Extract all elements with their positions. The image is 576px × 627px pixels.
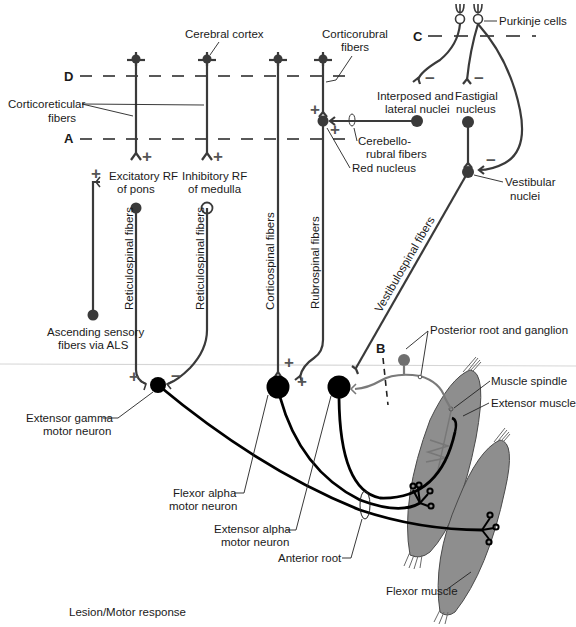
vestibular-label-1: Vestibular [505,176,556,188]
posterior-root-label: Posterior root and ganglion [430,324,568,336]
interposed-label-1: Interposed and [377,90,454,102]
ascending-label-2: fibers via ALS [58,339,129,351]
corticorubral-label-1: Corticorubral [322,28,388,40]
plus-sign: + [297,372,307,391]
interposed-nucleus-cell [411,115,423,127]
rubrospinal-label: Rubrospinal fibers [309,216,321,309]
cortical-neuron-1 [127,52,145,160]
muscle-spindle-label: Muscle spindle [491,375,567,387]
fastigial-label-2: nucleus [456,103,496,115]
lesion-label-d: D [64,69,73,84]
purkinje-cell-2 [463,4,522,174]
vestibulospinal-fiber [356,172,468,368]
cerebellorubral-label-2: rubral fibers [366,148,427,160]
reticulospinal-label-1: Reticulospinal fibers [123,207,135,310]
extensor-gamma-label-2: motor neuron [43,425,111,437]
excitatory-rf-label-2: of pons [117,183,155,195]
ascending-label-1: Ascending sensory [47,326,144,338]
lesion-label-c: C [413,29,423,44]
purkinje-label: Purkinje cells [499,15,567,27]
vestibulospinal-label: Vestibulospinal fibers [372,214,437,314]
ascending-sensory-cell [88,310,99,321]
lesion-level-b: B [376,341,388,405]
purkinje-cell-1 [413,4,465,84]
lesion-motor-response-label: Lesion/Motor response [69,606,186,618]
extensor-alpha-label-1: Extensor alpha [214,523,291,535]
corticoreticular-label-2: fibers [48,112,76,124]
minus-sign: − [425,69,435,88]
fastigial-label-1: Fastigial [455,90,498,102]
excitatory-rf-label-1: Excitatory RF [109,170,178,182]
ascending-sensory-fiber [93,182,100,315]
plus-sign: + [213,147,223,166]
reticulospinal-label-2: Reticulospinal fibers [194,207,206,310]
plus-sign: + [142,147,152,166]
extensor-muscle-label: Extensor muscle [491,397,576,409]
reticulospinal-fiber-excitatory [136,208,146,384]
flexor-muscle-label: Flexor muscle [386,585,458,597]
minus-sign: − [474,69,484,88]
corticorubral-label-2: fibers [341,41,369,53]
plus-sign: + [91,164,101,183]
cerebellorubral-label-1: Cerebello- [358,135,411,147]
minus-sign: − [486,151,496,170]
minus-sign: − [171,367,181,386]
anterior-root-label: Anterior root [278,552,342,564]
extensor-gamma-label-1: Extensor gamma [26,412,114,424]
inhibitory-rf-label-2: of medulla [188,183,242,195]
corticospinal-label: Corticospinal fibers [264,212,276,310]
cortical-neuron-2 [198,52,216,160]
anterior-root-ring [360,491,370,519]
lesion-label-b: B [376,341,385,356]
flexor-alpha-axon [280,397,420,508]
extensor-alpha-motor-neuron [328,376,351,399]
plus-sign: + [284,353,294,372]
red-nucleus-label: Red nucleus [352,162,416,174]
flexor-alpha-label-1: Flexor alpha [173,487,237,499]
flexor-alpha-motor-neuron [267,376,290,399]
plus-sign: + [310,100,320,119]
cerebral-cortex-label: Cerebral cortex [185,28,264,40]
vestibular-label-2: nuclei [510,190,540,202]
posterior-root-ganglion [398,354,410,366]
flexor-alpha-label-2: motor neuron [169,500,237,512]
motor-pathways-diagram: D A C B + + Cerebr [0,0,576,627]
corticoreticular-label-1: Corticoreticular [8,98,85,110]
inhibitory-rf-label-1: Inhibitory RF [182,170,247,182]
posterior-root-afferent [355,375,451,409]
lesion-label-a: A [64,131,74,146]
interposed-label-2: lateral nuclei [385,103,450,115]
extensor-alpha-label-2: motor neuron [221,536,289,548]
plus-sign: + [129,367,139,386]
